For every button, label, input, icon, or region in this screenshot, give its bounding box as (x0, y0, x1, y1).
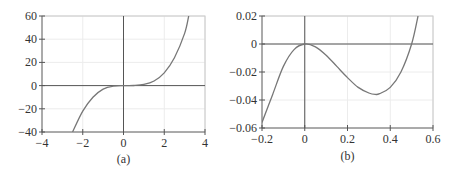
data-curve (73, 16, 189, 132)
panel-caption: (b) (341, 149, 355, 163)
y-tick-label: 40 (25, 32, 37, 46)
y-tick-label: −20 (18, 102, 37, 116)
x-tick-label: −4 (36, 136, 49, 150)
chart-panel-a: −40−200204060−4−2024(a) (18, 9, 208, 166)
y-tick-label: −0.02 (229, 65, 257, 79)
x-tick-label: −2 (76, 136, 89, 150)
y-tick-label: 0.02 (236, 9, 257, 23)
x-tick-label: 0.6 (426, 132, 441, 146)
x-tick-label: −0.2 (251, 132, 273, 146)
y-tick-label: −0.04 (229, 93, 257, 107)
y-tick-label: −40 (18, 125, 37, 139)
x-tick-label: 0 (302, 132, 308, 146)
y-tick-label: 0 (251, 37, 257, 51)
x-tick-label: 0.4 (383, 132, 398, 146)
x-tick-label: 0 (121, 136, 127, 150)
data-curve (262, 16, 418, 122)
chart-panel-b: −0.06−0.04−0.0200.02−0.200.20.40.6(b) (229, 9, 440, 163)
y-tick-label: 0 (31, 79, 37, 93)
y-tick-label: 20 (25, 55, 37, 69)
x-tick-label: 2 (161, 136, 167, 150)
x-tick-label: 0.2 (340, 132, 355, 146)
y-tick-label: 60 (25, 9, 37, 23)
panel-caption: (a) (117, 152, 130, 166)
figure: −40−200204060−4−2024(a) −0.06−0.04−0.020… (0, 0, 463, 177)
x-tick-label: 4 (202, 136, 208, 150)
